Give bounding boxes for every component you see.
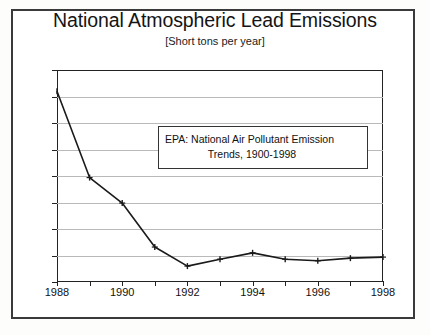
x-tick-label: 1990 bbox=[97, 286, 147, 298]
series-line bbox=[57, 91, 383, 266]
chart-figure: National Atmospheric Lead Emissions [Sho… bbox=[0, 0, 430, 335]
chart-subtitle: [Short tons per year] bbox=[0, 35, 430, 47]
annotation-line-2: Trends, 1900-1998 bbox=[165, 147, 361, 162]
data-point-marker bbox=[282, 256, 288, 262]
data-point-marker bbox=[217, 256, 223, 262]
x-tick-label: 1988 bbox=[32, 286, 82, 298]
data-point-marker bbox=[347, 255, 353, 261]
plot-area: 350040004500500055006000650070007500 198… bbox=[57, 70, 383, 282]
x-tick-label: 1994 bbox=[228, 286, 278, 298]
x-tick-label: 1998 bbox=[358, 286, 408, 298]
annotation-line-1: EPA: National Air Pollutant Emission bbox=[165, 132, 361, 147]
source-annotation-box: EPA: National Air Pollutant Emission Tre… bbox=[158, 126, 368, 169]
chart-title: National Atmospheric Lead Emissions bbox=[0, 9, 430, 32]
data-series-lead-emissions bbox=[57, 70, 383, 282]
x-tick-label: 1992 bbox=[162, 286, 212, 298]
data-point-marker bbox=[250, 250, 256, 256]
data-point-marker bbox=[315, 258, 321, 264]
x-tick-label: 1996 bbox=[293, 286, 343, 298]
